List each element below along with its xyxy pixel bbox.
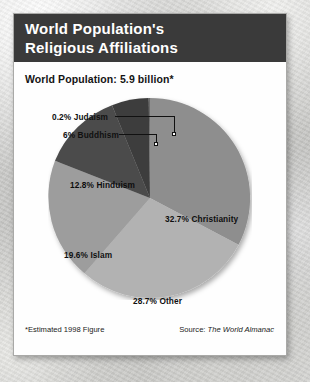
title-banner: World Population's Religious Affiliation… (14, 14, 286, 62)
leader-dot-judaism (172, 132, 176, 136)
infographic-card: World Population's Religious Affiliation… (13, 13, 287, 356)
source-credit: Source: The World Almanac (179, 325, 274, 334)
leader-line-judaism-horizontal (115, 116, 175, 117)
pie-label-judaism: 0.2% Judaism (52, 112, 108, 122)
footnote: *Estimated 1998 Figure (25, 325, 104, 334)
page-title-line-1: World Population's (25, 19, 286, 38)
leader-line-buddhism-horizontal (119, 134, 157, 135)
pie-label-christianity: 32.7% Christianity (165, 214, 238, 224)
pie-chart: 0.2% Judaism 6% Buddhism 12.8% Hinduism … (14, 88, 286, 314)
source-publication: The World Almanac (208, 325, 274, 334)
pie-label-buddhism: 6% Buddhism (63, 130, 119, 140)
pie-label-hinduism: 12.8% Hinduism (70, 180, 135, 190)
pie-label-other: 28.7% Other (133, 296, 182, 306)
page-title-line-2: Religious Affiliations (25, 38, 286, 57)
leader-dot-buddhism (154, 142, 158, 146)
subtitle: World Population: 5.9 billion* (25, 73, 174, 85)
source-label: Source: (179, 325, 205, 334)
pie-label-islam: 19.6% Islam (64, 250, 112, 260)
pie-chart-svg (48, 96, 252, 300)
